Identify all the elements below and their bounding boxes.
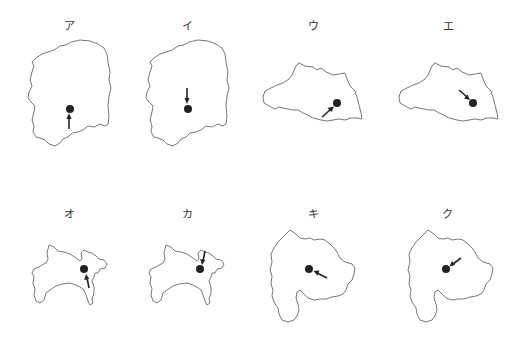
diagram-canvas xyxy=(0,0,528,339)
saitama-outline xyxy=(263,63,362,121)
map-panel-ka xyxy=(149,245,224,305)
map-panel-o xyxy=(32,245,107,305)
map-panel-e xyxy=(399,63,498,121)
tochigi-outline xyxy=(28,40,111,146)
dot-marker xyxy=(80,265,88,273)
dot-marker xyxy=(184,105,192,113)
kanagawa-outline xyxy=(32,245,107,305)
yamanashi-outline xyxy=(270,230,355,322)
map-panel-ku xyxy=(408,230,493,322)
dot-marker xyxy=(66,105,74,113)
map-panel-u xyxy=(263,63,362,121)
dot-marker xyxy=(196,265,204,273)
dot-marker xyxy=(333,99,341,107)
dot-marker xyxy=(305,265,313,273)
yamanashi-outline xyxy=(408,230,493,322)
kanagawa-outline xyxy=(149,245,224,305)
saitama-outline xyxy=(399,63,498,121)
map-panel-ki xyxy=(270,230,355,322)
dot-marker xyxy=(469,99,477,107)
dot-marker xyxy=(442,265,450,273)
map-panel-i xyxy=(146,40,229,146)
map-panel-a xyxy=(28,40,111,146)
